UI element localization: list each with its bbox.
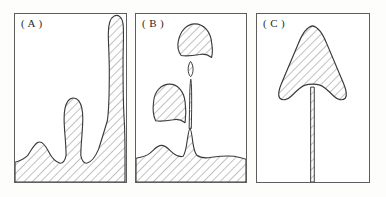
panel-c: ( C )	[256, 13, 370, 183]
panel-group: ( A ) ( B )	[0, 0, 386, 197]
panel-b-fluid-body	[136, 129, 246, 182]
panel-a: ( A )	[14, 13, 127, 183]
panel-b-drawing	[136, 14, 246, 182]
panel-b-label: ( B )	[142, 17, 164, 29]
panel-c-drawing	[257, 14, 369, 182]
panel-c-label: ( C )	[263, 17, 285, 29]
panel-b-thin-stem	[189, 79, 192, 128]
panel-a-drawing	[15, 14, 126, 182]
panel-a-label: ( A )	[21, 17, 43, 29]
figure-root: ( A ) ( B )	[0, 0, 386, 197]
panel-a-fluid-body	[15, 15, 125, 182]
panel-c-long-stem	[311, 87, 315, 182]
panel-b-upper-droplet	[178, 24, 212, 58]
panel-b-satellite-droplet	[188, 61, 193, 76]
panel-b-left-droplet	[153, 84, 186, 123]
panel-b: ( B )	[135, 13, 247, 183]
